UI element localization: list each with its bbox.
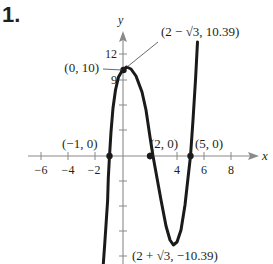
x-axis bbox=[28, 152, 259, 160]
x-tick-label: 8 bbox=[228, 163, 234, 177]
point-label-y-intercept: (0, 10) bbox=[64, 60, 99, 75]
y-axis-label: y bbox=[117, 13, 124, 27]
x-intercept-point bbox=[147, 153, 153, 159]
point-label-5: (5, 0) bbox=[195, 136, 223, 151]
x-axis-label: x bbox=[261, 148, 268, 163]
point-label-neg1: (−1, 0) bbox=[62, 136, 98, 151]
leader-line bbox=[127, 42, 158, 67]
x-tick-label: −6 bbox=[35, 163, 48, 177]
point-label-2: (2, 0) bbox=[150, 136, 178, 151]
x-intercept-point bbox=[106, 153, 112, 159]
x-tick-label: 6 bbox=[201, 163, 207, 177]
function-graph: x y −6 −4 −2 4 6 8 12 9 (0, 10) (2 − √3,… bbox=[0, 0, 273, 264]
y-tick-label: 12 bbox=[105, 47, 117, 61]
x-tick-label: −4 bbox=[62, 163, 75, 177]
point-label-local-min: (2 + √3, −10.39) bbox=[132, 248, 218, 263]
x-tick-label: −2 bbox=[88, 163, 101, 177]
x-intercept-point bbox=[187, 153, 193, 159]
point-label-local-max: (2 − √3, 10.39) bbox=[161, 24, 239, 39]
x-tick-label: 4 bbox=[174, 163, 180, 177]
leader-line bbox=[103, 69, 122, 70]
